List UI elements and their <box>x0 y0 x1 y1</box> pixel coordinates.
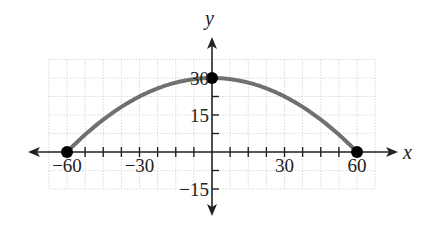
x-axis-label: x <box>402 141 412 163</box>
y-axis-label: y <box>203 7 214 30</box>
parabola-chart: −60−3030603015−15 x y <box>0 0 442 228</box>
y-tick-label: −15 <box>179 179 209 200</box>
x-tick-label: 60 <box>348 155 367 176</box>
x-tick-label: −30 <box>125 155 155 176</box>
y-tick-label: 15 <box>190 105 209 126</box>
x-tick-label: −60 <box>52 155 82 176</box>
y-tick-label: 30 <box>190 68 209 89</box>
x-tick-label: 30 <box>275 155 294 176</box>
